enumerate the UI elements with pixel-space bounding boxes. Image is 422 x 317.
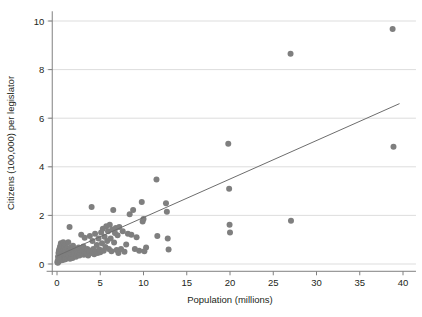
scatter-plot-figure: 02468100510152025303540 Population (mill…: [0, 0, 422, 317]
y-axis-title: Citizens (100,000) per legislator: [5, 76, 16, 210]
x-tick-label-5: 5: [98, 277, 103, 288]
data-point: [165, 235, 171, 241]
y-tick-label-6: 6: [39, 113, 44, 124]
x-tick-label-30: 30: [311, 277, 322, 288]
data-point: [128, 232, 134, 238]
x-tick-label-15: 15: [181, 277, 192, 288]
x-tick-label-35: 35: [354, 277, 365, 288]
x-tick-label-40: 40: [398, 277, 409, 288]
data-point: [226, 186, 232, 192]
y-tick-label-8: 8: [39, 64, 44, 75]
data-point: [121, 249, 127, 255]
data-point: [166, 246, 172, 252]
x-tick-label-0: 0: [54, 277, 59, 288]
data-point: [143, 244, 149, 250]
data-point: [67, 224, 73, 230]
data-point: [390, 144, 396, 150]
plot-canvas: 02468100510152025303540 Population (mill…: [0, 0, 422, 317]
data-point: [227, 229, 233, 235]
tick-marks-group: [48, 21, 403, 275]
x-tick-label-10: 10: [138, 277, 149, 288]
data-point: [134, 234, 140, 240]
data-point: [123, 242, 129, 248]
data-point: [227, 222, 233, 228]
data-point: [288, 218, 294, 224]
data-point: [130, 207, 136, 213]
data-point: [288, 51, 294, 57]
data-point: [136, 248, 142, 254]
data-point: [139, 199, 145, 205]
tick-labels-group: 02468100510152025303540: [34, 16, 409, 289]
data-point: [65, 239, 71, 245]
y-tick-label-10: 10: [34, 16, 45, 27]
data-point: [89, 204, 95, 210]
y-tick-label-4: 4: [39, 161, 44, 172]
data-point: [115, 232, 121, 238]
data-point: [390, 26, 396, 32]
x-tick-label-25: 25: [268, 277, 279, 288]
data-point: [225, 141, 231, 147]
data-point: [164, 209, 170, 215]
data-point: [154, 233, 160, 239]
x-tick-label-20: 20: [225, 277, 236, 288]
data-point: [110, 207, 116, 213]
data-points-group: [54, 26, 396, 266]
data-point: [92, 231, 98, 237]
y-tick-label-0: 0: [39, 259, 44, 270]
data-point: [108, 248, 114, 254]
x-axis-title: Population (millions): [187, 294, 273, 305]
data-point: [153, 176, 159, 182]
data-point: [163, 200, 169, 206]
data-point: [120, 228, 126, 234]
y-tick-label-2: 2: [39, 210, 44, 221]
data-point: [111, 240, 117, 246]
data-point: [82, 235, 88, 241]
